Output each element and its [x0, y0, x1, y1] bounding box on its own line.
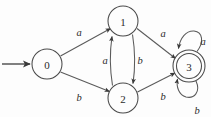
state-label-1: 1 — [120, 16, 126, 28]
edge-label-0-to-2: b — [76, 92, 81, 103]
edge-0-to-2: b — [61, 72, 110, 103]
state-node-2[interactable]: 2 — [108, 83, 138, 113]
edge-label-2-to-1: a — [102, 55, 107, 66]
state-label-3: 3 — [186, 61, 192, 73]
edge-2-to-1: a — [102, 37, 112, 86]
edge-label-3-self-a: a — [200, 36, 205, 47]
edge-label-1-to-2: b — [137, 55, 142, 66]
edge-0-to-1: a — [61, 27, 111, 57]
edge-label-2-to-3: b — [160, 91, 165, 102]
edge-label-3-self-b: b — [194, 105, 199, 116]
state-node-3[interactable]: 3 — [173, 50, 205, 82]
self-loop-3-a: a — [179, 31, 206, 52]
self-loop-3-b: b — [177, 79, 200, 116]
automaton-diagram: a b a b a b a — [0, 0, 211, 117]
state-label-2: 2 — [120, 93, 126, 105]
edge-1-to-2: b — [133, 35, 143, 84]
state-label-0: 0 — [44, 59, 50, 71]
edge-label-0-to-1: a — [76, 27, 81, 38]
edge-1-to-3: a — [137, 28, 176, 59]
state-node-0[interactable]: 0 — [32, 49, 62, 79]
edge-2-to-3: b — [138, 73, 176, 102]
edge-label-1-to-3: a — [160, 28, 165, 39]
state-node-1[interactable]: 1 — [108, 6, 138, 36]
